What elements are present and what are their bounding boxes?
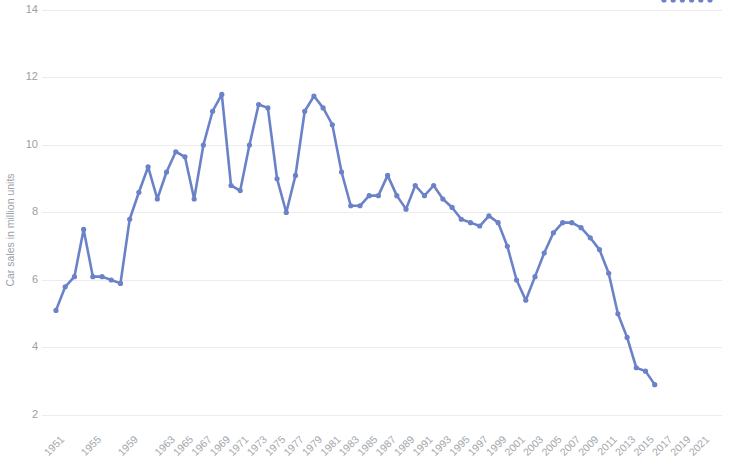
data-point[interactable] (348, 203, 353, 208)
data-point[interactable] (376, 193, 381, 198)
x-axis-tick-labels: 1951195519591963196519671969197119731975… (41, 433, 711, 458)
data-point[interactable] (256, 102, 261, 107)
data-point[interactable] (136, 190, 141, 195)
data-point[interactable] (698, 0, 703, 3)
data-point[interactable] (385, 173, 390, 178)
data-point[interactable] (146, 164, 151, 169)
data-point[interactable] (173, 149, 178, 154)
data-point[interactable] (477, 223, 482, 228)
data-point[interactable] (403, 207, 408, 212)
x-tick-label: 1951 (41, 433, 66, 458)
data-point[interactable] (311, 93, 316, 98)
line-chart: 2468101214 19511955195919631965196719691… (0, 0, 729, 466)
y-tick-label: 10 (26, 138, 38, 150)
data-point[interactable] (357, 203, 362, 208)
data-point[interactable] (274, 176, 279, 181)
data-point[interactable] (615, 311, 620, 316)
data-point[interactable] (661, 0, 666, 3)
data-point[interactable] (265, 105, 270, 110)
data-point[interactable] (321, 105, 326, 110)
data-point[interactable] (118, 281, 123, 286)
data-point[interactable] (228, 183, 233, 188)
data-point[interactable] (422, 193, 427, 198)
data-point[interactable] (182, 154, 187, 159)
data-point[interactable] (560, 220, 565, 225)
y-tick-label: 6 (32, 273, 38, 285)
data-point[interactable] (440, 196, 445, 201)
data-point[interactable] (72, 274, 77, 279)
data-point[interactable] (219, 92, 224, 97)
data-point[interactable] (192, 196, 197, 201)
x-tick-label: 2021 (686, 433, 711, 458)
data-point[interactable] (523, 298, 528, 303)
data-point[interactable] (127, 217, 132, 222)
data-point[interactable] (90, 274, 95, 279)
data-point[interactable] (53, 308, 58, 313)
data-point[interactable] (459, 217, 464, 222)
data-point[interactable] (201, 142, 206, 147)
data-point[interactable] (578, 225, 583, 230)
data-point[interactable] (514, 277, 519, 282)
data-point[interactable] (449, 205, 454, 210)
data-point[interactable] (155, 196, 160, 201)
x-tick-label: 1959 (115, 433, 140, 458)
gridline-group (42, 10, 722, 415)
y-tick-label: 2 (32, 408, 38, 420)
data-point[interactable] (625, 335, 630, 340)
data-point[interactable] (597, 247, 602, 252)
data-point[interactable] (689, 0, 694, 3)
data-point[interactable] (671, 0, 676, 3)
data-point[interactable] (339, 169, 344, 174)
y-tick-label: 4 (32, 340, 38, 352)
y-tick-label: 12 (26, 70, 38, 82)
data-point[interactable] (468, 220, 473, 225)
data-point[interactable] (367, 193, 372, 198)
x-tick-label: 1955 (78, 433, 103, 458)
data-point[interactable] (81, 227, 86, 232)
data-point[interactable] (551, 230, 556, 235)
data-point[interactable] (606, 271, 611, 276)
data-point[interactable] (588, 235, 593, 240)
data-point[interactable] (652, 382, 657, 387)
data-point[interactable] (634, 365, 639, 370)
data-point[interactable] (330, 122, 335, 127)
data-point[interactable] (293, 173, 298, 178)
data-point[interactable] (63, 284, 68, 289)
y-axis-title: Car sales in million units (4, 173, 16, 286)
series-line-car-sales (56, 94, 655, 384)
data-point[interactable] (247, 142, 252, 147)
data-point[interactable] (284, 210, 289, 215)
data-point[interactable] (302, 109, 307, 114)
y-tick-label: 14 (26, 3, 38, 15)
data-point[interactable] (707, 0, 712, 3)
data-point[interactable] (109, 277, 114, 282)
y-axis-tick-labels: 2468101214 (26, 3, 38, 420)
data-point[interactable] (431, 183, 436, 188)
data-point[interactable] (505, 244, 510, 249)
data-point[interactable] (569, 220, 574, 225)
data-point[interactable] (413, 183, 418, 188)
y-tick-label: 8 (32, 205, 38, 217)
data-point[interactable] (210, 109, 215, 114)
data-point[interactable] (486, 213, 491, 218)
data-point[interactable] (164, 169, 169, 174)
data-point[interactable] (99, 274, 104, 279)
series-markers (53, 0, 712, 387)
data-point[interactable] (542, 250, 547, 255)
chart-canvas: 2468101214 19511955195919631965196719691… (0, 0, 729, 466)
data-point[interactable] (680, 0, 685, 3)
data-point[interactable] (532, 274, 537, 279)
data-point[interactable] (394, 193, 399, 198)
data-point[interactable] (238, 188, 243, 193)
data-point[interactable] (496, 220, 501, 225)
data-point[interactable] (643, 369, 648, 374)
